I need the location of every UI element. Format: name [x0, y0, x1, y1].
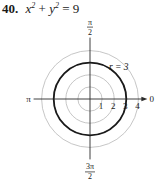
angle-label-top: π 2: [87, 18, 93, 37]
angle-label-right: 0: [149, 94, 154, 104]
angle-label-bottom: 3π 2: [85, 162, 95, 181]
polar-chart: 1234 r = 3 π 2 π 0 3π 2: [0, 0, 158, 185]
angle-label-left: π: [26, 94, 31, 104]
polar-axis-arrow: [141, 97, 147, 102]
radial-tick-label-1: 1: [99, 101, 104, 111]
radial-tick-label-4: 4: [135, 101, 140, 111]
angle-label-bottom-num: 3π: [86, 162, 94, 171]
angle-label-top-num: π: [88, 18, 92, 27]
radial-tick-label-3: 3: [123, 101, 128, 111]
curve-label: r = 3: [109, 62, 129, 72]
angle-label-top-den: 2: [88, 28, 92, 37]
radial-tick-label-2: 2: [111, 101, 116, 111]
angle-label-bottom-den: 2: [88, 172, 92, 181]
axes: [34, 38, 148, 160]
radial-tick-labels: 1234: [99, 101, 140, 111]
